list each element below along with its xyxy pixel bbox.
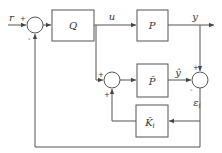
model-sum-plus-sign-bottom: +: [104, 91, 110, 99]
input-summing-junction: [27, 17, 43, 33]
model-sum-plus-sign-top: +: [98, 71, 104, 79]
outer-feedback-line: [35, 34, 200, 147]
model-output-label: ŷ: [174, 67, 181, 78]
error-sum-minus-sign: -: [190, 86, 193, 94]
input-sum-plus-sign: +: [20, 15, 26, 23]
input-sum-minus-sign: -: [28, 35, 31, 43]
model-summing-junction: [104, 72, 120, 88]
reference-label: r: [9, 12, 15, 23]
error-sum-plus-sign: +: [193, 64, 199, 72]
error-summing-junction: [192, 72, 208, 88]
controller-label: Q: [69, 20, 77, 31]
model-label: P̂: [148, 76, 156, 87]
block-diagram: r + - Q u P y + + + P̂ ŷ - εi K̂i: [0, 0, 222, 153]
control-signal-label: u: [109, 11, 115, 22]
output-label: y: [191, 11, 198, 22]
estimator-to-model-sum-line: [112, 89, 136, 121]
plant-label: P: [148, 20, 156, 31]
